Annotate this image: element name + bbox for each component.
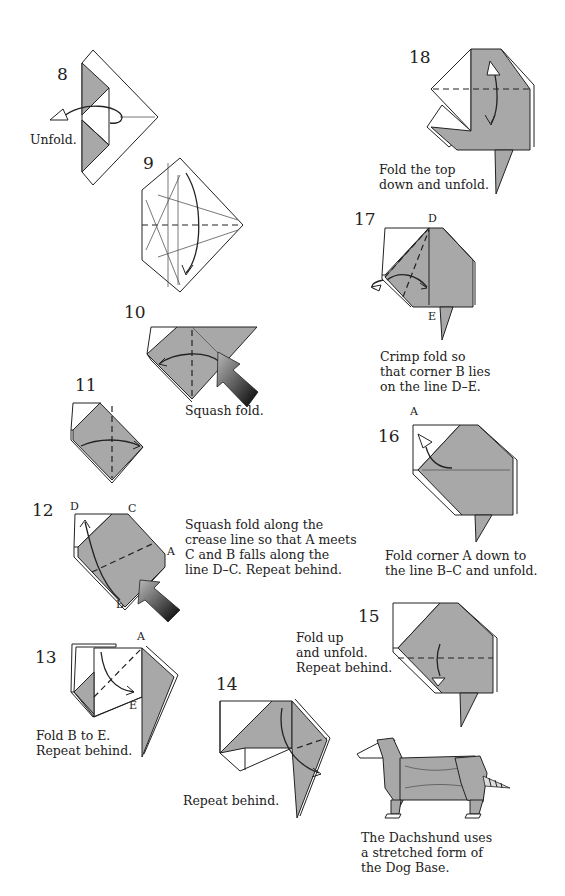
step-15-number: 15 — [358, 606, 380, 626]
step-17-label-d: D — [428, 212, 437, 225]
dachshund-figure — [355, 728, 515, 823]
step-11-diagram — [68, 400, 148, 485]
step-17-caption: Crimp fold so that corner B lies on the … — [380, 349, 490, 394]
final-caption: The Dachshund uses a stretched form of t… — [361, 830, 492, 875]
step-12-number: 12 — [32, 500, 54, 520]
step-13-caption: Fold B to E. Repeat behind. — [36, 728, 132, 758]
step-13-number: 13 — [35, 647, 57, 667]
step-14-caption: Repeat behind. — [183, 793, 279, 808]
step-10-diagram — [145, 322, 265, 412]
step-10-number: 10 — [124, 302, 146, 322]
step-15-diagram — [390, 600, 500, 730]
step-11-number: 11 — [75, 375, 97, 395]
step-16-diagram — [410, 422, 520, 547]
step-12-diagram — [70, 512, 190, 617]
step-12-caption: Squash fold along the crease line so tha… — [185, 517, 357, 577]
step-16-caption: Fold corner A down to the line B–C and u… — [385, 548, 538, 578]
step-16-number: 16 — [378, 426, 400, 446]
step-18-caption: Fold the top down and unfold. — [379, 162, 489, 192]
step-14-number: 14 — [216, 674, 238, 694]
step-17-diagram — [365, 225, 475, 345]
step-15-caption: Fold up and unfold. Repeat behind. — [296, 630, 392, 675]
step-10-caption: Squash fold. — [185, 403, 264, 418]
step-16-label-a: A — [410, 405, 418, 418]
step-9-diagram — [138, 155, 248, 295]
step-8-caption: Unfold. — [30, 132, 77, 147]
